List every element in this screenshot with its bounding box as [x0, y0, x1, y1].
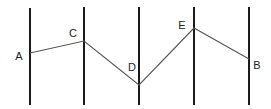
zigzag-diagram: ACDEB — [0, 0, 271, 109]
point-label-e: E — [178, 19, 185, 31]
vertical-lines — [30, 7, 249, 105]
diagram-canvas: ACDEB — [0, 0, 271, 109]
point-label-b: B — [253, 59, 260, 71]
point-label-a: A — [15, 50, 23, 62]
point-label-d: D — [128, 61, 136, 73]
point-label-c: C — [69, 27, 77, 39]
